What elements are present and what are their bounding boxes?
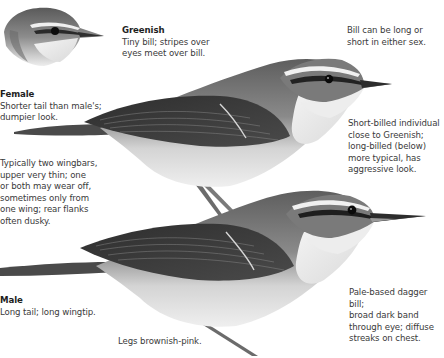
annotation-legs-body: Legs brownish-pink. xyxy=(118,336,228,348)
annotation-dagger-bill: Pale-based dagger bill; broad dark band … xyxy=(349,287,444,345)
annotation-greenish: Greenish Tiny bill; stripes over eyes me… xyxy=(122,25,232,60)
annotation-short-billed-body: Short-billed individual close to Greenis… xyxy=(348,118,443,176)
annotation-legs: Legs brownish-pink. xyxy=(118,336,228,348)
annotation-female: Female Shorter tail than male's; dumpier… xyxy=(0,89,110,124)
annotation-bill-sex-body: Bill can be long or short in either sex. xyxy=(347,25,442,48)
annotation-bill-sex: Bill can be long or short in either sex. xyxy=(347,25,442,48)
annotation-greenish-body: Tiny bill; stripes over eyes meet over b… xyxy=(122,37,232,60)
annotation-male-body: Long tail; long wingtip. xyxy=(0,307,100,319)
annotation-male: Male Long tail; long wingtip. xyxy=(0,295,100,318)
annotation-female-title: Female xyxy=(0,89,110,101)
annotation-greenish-title: Greenish xyxy=(122,25,232,37)
greenish-head-figure xyxy=(4,8,104,66)
annotation-short-billed: Short-billed individual close to Greenis… xyxy=(348,118,443,176)
annotation-female-body: Shorter tail than male's; dumpier look. xyxy=(0,101,110,124)
annotation-dagger-bill-body: Pale-based dagger bill; broad dark band … xyxy=(349,287,444,345)
annotation-wingbars: Typically two wingbars, upper very thin;… xyxy=(0,158,100,228)
annotation-wingbars-body: Typically two wingbars, upper very thin;… xyxy=(0,158,100,228)
annotation-male-title: Male xyxy=(0,295,100,307)
